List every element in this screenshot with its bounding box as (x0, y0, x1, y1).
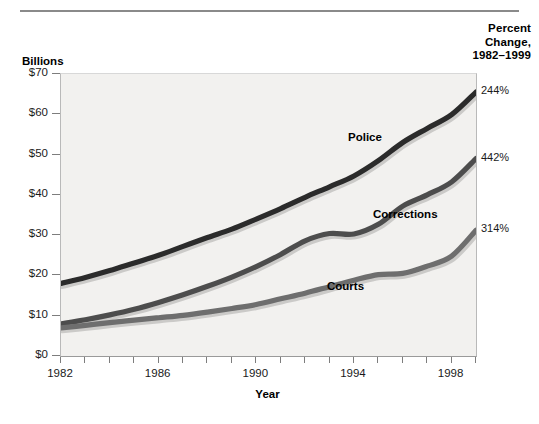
percent-change-value-courts: 314% (481, 222, 509, 234)
y-tick-mark (52, 274, 60, 275)
y-tick-label: $30 (0, 227, 48, 239)
x-tick-mark (426, 356, 427, 363)
percent-change-value-corrections: 442% (481, 151, 509, 163)
x-tick-mark (475, 356, 476, 363)
y-tick-label: $70 (0, 66, 48, 78)
series-label-courts: Courts (327, 280, 364, 292)
y-tick-label: $20 (0, 267, 48, 279)
x-tick-mark (60, 356, 61, 363)
series-label-corrections: Corrections (373, 208, 438, 220)
x-tick-mark (377, 356, 378, 363)
top-divider-rule (20, 10, 519, 12)
x-tick-mark (451, 356, 452, 363)
y-tick-label: $60 (0, 106, 48, 118)
series-line-police (61, 92, 476, 283)
y-tick-label: $10 (0, 308, 48, 320)
chart-figure: Percent Change, 1982–1999 Billions $70$6… (0, 0, 539, 424)
y-tick-mark (52, 113, 60, 114)
x-tick-mark (280, 356, 281, 363)
series-shadow-police (62, 94, 476, 285)
series-line-corrections (61, 159, 476, 324)
y-tick-label: $50 (0, 147, 48, 159)
percent-change-heading-line2: Change, (421, 36, 531, 50)
series-label-police: Police (348, 131, 382, 143)
x-tick-mark (182, 356, 183, 363)
x-tick-mark (255, 356, 256, 363)
x-tick-mark (353, 356, 354, 363)
y-tick-mark (52, 154, 60, 155)
y-tick-mark (52, 355, 60, 356)
x-tick-mark (402, 356, 403, 363)
y-tick-mark (52, 194, 60, 195)
percent-change-heading-line3: 1982–1999 (421, 49, 531, 63)
x-tick-mark (329, 356, 330, 363)
x-tick-mark (109, 356, 110, 363)
x-tick-label: 1982 (30, 367, 90, 379)
x-tick-mark (158, 356, 159, 363)
percent-change-value-police: 244% (481, 84, 509, 96)
x-axis-title: Year (60, 388, 475, 400)
percent-change-heading-line1: Percent (421, 22, 531, 36)
x-tick-mark (133, 356, 134, 363)
x-tick-mark (304, 356, 305, 363)
x-tick-mark (84, 356, 85, 363)
y-tick-mark (52, 315, 60, 316)
percent-change-heading: Percent Change, 1982–1999 (421, 22, 531, 63)
x-tick-label: 1990 (225, 367, 285, 379)
x-tick-label: 1986 (128, 367, 188, 379)
x-tick-label: 1998 (421, 367, 481, 379)
y-tick-label: $40 (0, 187, 48, 199)
y-tick-mark (52, 234, 60, 235)
y-tick-label: $0 (0, 348, 48, 360)
x-tick-mark (231, 356, 232, 363)
x-tick-mark (206, 356, 207, 363)
x-tick-label: 1994 (323, 367, 383, 379)
y-tick-mark (52, 73, 60, 74)
